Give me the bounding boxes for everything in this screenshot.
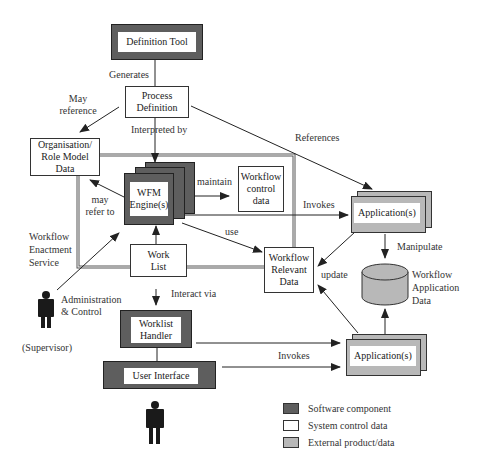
- process-definition-box: Process Definition: [125, 86, 189, 118]
- legend-swatch-external: [283, 437, 299, 448]
- enactment-service-label: Workflow Enactment Service: [29, 230, 79, 269]
- legend-swatch-system-control: [283, 420, 299, 431]
- workflow-application-data-label: Workflow Application Data: [412, 268, 472, 307]
- wfm-engine-label: WFM Engine(s): [130, 182, 168, 216]
- user-interface-box: User Interface: [103, 361, 216, 389]
- worklist-handler-box: Worklist Handler: [120, 310, 192, 348]
- workflow-control-data-box: Workflow control data: [238, 166, 284, 212]
- user-person-icon: [146, 401, 164, 444]
- legend-label-system-control: System control data: [308, 420, 387, 432]
- workflow-relevant-data-box: Workflow Relevant Data: [264, 247, 314, 293]
- wfm-engine-box: WFM Engine(s): [124, 173, 174, 225]
- application-top-label: Application(s): [354, 203, 420, 223]
- workflow-application-data-text: Workflow Application Data: [412, 269, 459, 306]
- application-bottom-box: Application(s): [346, 339, 421, 376]
- supervisor-label: (Supervisor): [22, 342, 72, 354]
- edge-label-administration-control-text: Administration & Control: [61, 294, 122, 317]
- edge-label-may-refer-to-text: may refer to: [85, 194, 114, 217]
- user-interface-label: User Interface: [124, 368, 198, 384]
- edge-label-update: update: [321, 269, 348, 281]
- edge-label-manipulate: Manipulate: [397, 241, 443, 253]
- edge-label-may-reference: May reference: [58, 93, 98, 117]
- legend-label-external: External product/data: [308, 437, 394, 449]
- edge-label-administration-control: Administration & Control: [61, 294, 121, 318]
- legend-label-software: Software component: [308, 403, 391, 415]
- edge-label-invokes-top: Invokes: [303, 199, 335, 211]
- supervisor-person-icon: [38, 291, 54, 328]
- work-list-box: Work List: [130, 244, 187, 277]
- edge-label-interact-via: Interact via: [171, 288, 216, 300]
- legend-swatch-software: [283, 403, 299, 414]
- definition-tool-box: Definition Tool: [111, 24, 203, 60]
- application-top-box: Application(s): [351, 196, 426, 233]
- edge-label-references: References: [295, 132, 339, 144]
- enactment-service-text: Workflow Enactment Service: [29, 231, 72, 268]
- edge-label-maintain: maintain: [197, 176, 232, 188]
- database-cylinder: [362, 264, 408, 305]
- worklist-handler-label: Worklist Handler: [131, 317, 181, 343]
- edge-label-may-reference-text: May reference: [59, 93, 96, 116]
- application-bottom-label: Application(s): [350, 346, 416, 366]
- org-role-model-box: Organisation/ Role Model Data: [30, 138, 100, 176]
- edge-label-invokes-bottom: Invokes: [278, 350, 310, 362]
- definition-tool-label: Definition Tool: [118, 32, 196, 52]
- edge-label-generates: Generates: [109, 69, 149, 81]
- edge-label-may-refer-to: may refer to: [85, 194, 115, 218]
- edge-label-use: use: [225, 226, 238, 238]
- edge-label-interpreted-by: Interpreted by: [131, 124, 187, 136]
